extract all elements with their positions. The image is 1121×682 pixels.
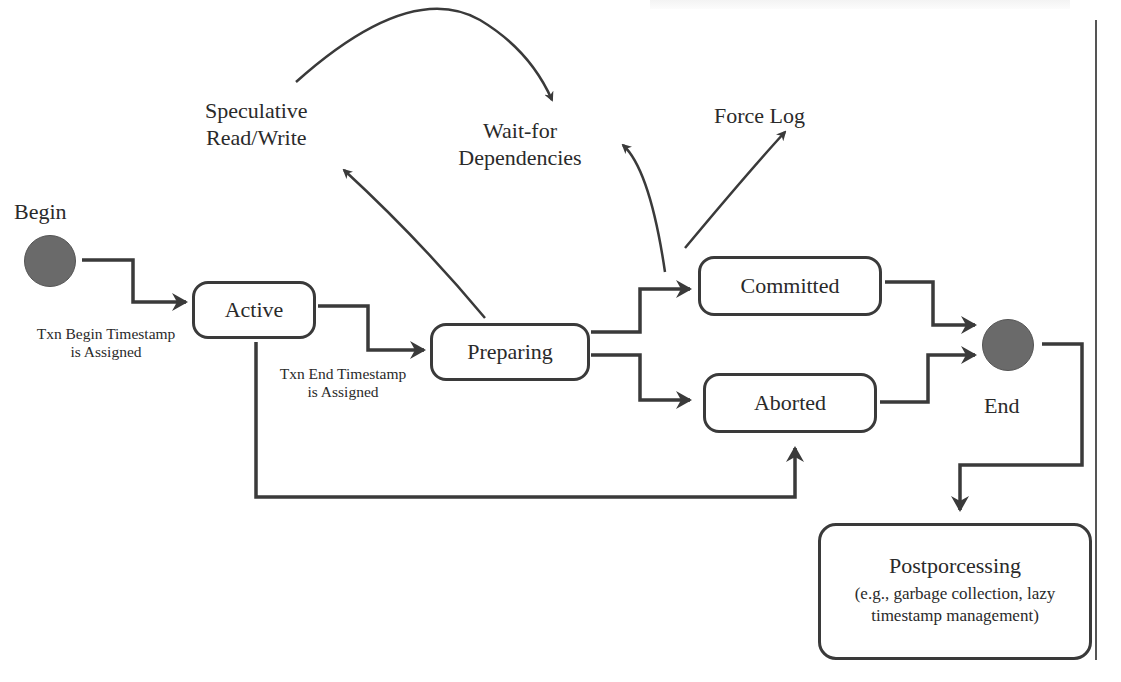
begin-note-line1: Txn Begin Timestamp — [6, 325, 206, 343]
end-node — [982, 319, 1034, 371]
postprocessing-title: Postporcessing — [821, 552, 1089, 579]
action-speculative-line2: Read/Write — [205, 124, 308, 151]
preparing-note: Txn End Timestamp is Assigned — [258, 365, 428, 401]
action-wait-for-line2: Dependencies — [435, 144, 605, 171]
state-preparing-label: Preparing — [467, 339, 553, 365]
state-aborted[interactable]: Aborted — [703, 373, 877, 433]
begin-node — [24, 235, 76, 287]
preparing-note-line2: is Assigned — [258, 383, 428, 401]
action-speculative: Speculative Read/Write — [205, 97, 308, 151]
state-preparing[interactable]: Preparing — [430, 323, 590, 381]
preparing-note-line1: Txn End Timestamp — [258, 365, 428, 383]
state-active[interactable]: Active — [192, 281, 316, 339]
postprocessing-detail-line1: (e.g., garbage collection, lazy — [821, 583, 1089, 605]
begin-note-line2: is Assigned — [6, 343, 206, 361]
state-committed-label: Committed — [741, 273, 840, 299]
state-active-label: Active — [225, 297, 284, 323]
action-speculative-line1: Speculative — [205, 97, 308, 124]
postprocessing-detail-line2: timestamp management) — [821, 605, 1089, 627]
begin-label: Begin — [14, 198, 67, 225]
state-committed[interactable]: Committed — [698, 256, 882, 316]
state-postprocessing[interactable]: Postporcessing (e.g., garbage collection… — [818, 523, 1092, 660]
action-force-log: Force Log — [714, 102, 805, 129]
action-wait-for-line1: Wait-for — [435, 117, 605, 144]
begin-note: Txn Begin Timestamp is Assigned — [6, 325, 206, 361]
action-wait-for: Wait-for Dependencies — [435, 117, 605, 171]
end-label: End — [984, 392, 1019, 419]
state-aborted-label: Aborted — [754, 390, 826, 416]
